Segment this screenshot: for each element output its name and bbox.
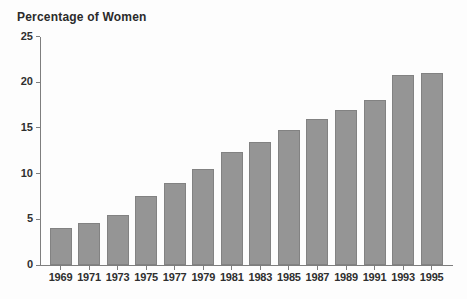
y-tick [36, 219, 40, 220]
y-tick [36, 127, 40, 128]
x-axis-label: 1993 [388, 271, 418, 283]
x-axis-line [40, 265, 453, 266]
bar-1983 [249, 142, 271, 265]
x-axis-label: 1983 [245, 271, 275, 283]
y-axis-line [40, 37, 41, 267]
y-tick [36, 36, 40, 37]
x-tick [346, 266, 347, 270]
x-tick [117, 266, 118, 270]
chart-title: Percentage of Women [17, 10, 147, 24]
x-tick [89, 266, 90, 270]
x-axis-label: 1979 [188, 271, 218, 283]
y-tick-label: 20 [7, 75, 33, 88]
x-tick [174, 266, 175, 270]
x-tick [374, 266, 375, 270]
x-axis-label: 1971 [74, 271, 104, 283]
x-tick [203, 266, 204, 270]
bar-1993 [392, 75, 414, 265]
bar-1979 [192, 169, 214, 265]
bar-1989 [335, 110, 357, 265]
x-tick [231, 266, 232, 270]
bar-1985 [278, 130, 300, 265]
bar-1995 [421, 73, 443, 265]
x-axis-label: 1987 [302, 271, 332, 283]
bar-chart: Percentage of Women 05101520251969197119… [0, 0, 467, 299]
x-tick [403, 266, 404, 270]
x-axis-label: 1975 [131, 271, 161, 283]
bar-1977 [164, 183, 186, 265]
x-tick [146, 266, 147, 270]
x-axis-label: 1991 [360, 271, 390, 283]
y-tick-label: 0 [7, 258, 33, 271]
x-axis-label: 1973 [103, 271, 133, 283]
y-tick-label: 25 [7, 30, 33, 43]
bar-1975 [135, 196, 157, 265]
bar-1971 [78, 223, 100, 265]
x-axis-label: 1969 [46, 271, 76, 283]
x-tick [317, 266, 318, 270]
y-tick-label: 5 [7, 212, 33, 225]
x-tick [260, 266, 261, 270]
bar-1981 [221, 152, 243, 265]
y-tick-label: 10 [7, 167, 33, 180]
y-tick [36, 173, 40, 174]
bar-1973 [107, 215, 129, 265]
y-tick-label: 15 [7, 121, 33, 134]
bar-1991 [364, 100, 386, 265]
x-axis-label: 1989 [331, 271, 361, 283]
x-axis-label: 1977 [160, 271, 190, 283]
y-tick [36, 265, 40, 266]
x-tick [288, 266, 289, 270]
y-tick [36, 82, 40, 83]
x-tick [60, 266, 61, 270]
x-axis-label: 1985 [274, 271, 304, 283]
bar-1969 [50, 228, 72, 265]
x-axis-label: 1981 [217, 271, 247, 283]
x-axis-label: 1995 [417, 271, 447, 283]
x-tick [431, 266, 432, 270]
bar-1987 [306, 119, 328, 265]
